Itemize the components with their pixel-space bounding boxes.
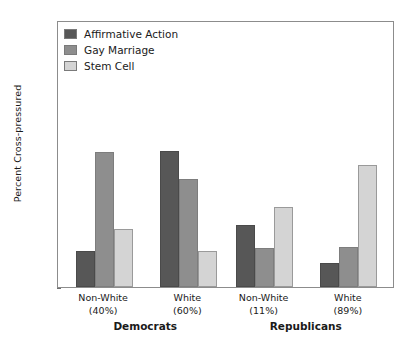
bar [76,251,95,287]
bar [198,251,217,287]
legend-label: Gay Marriage [84,44,155,56]
x-axis-category-name: White [288,292,400,305]
legend-item: Affirmative Action [64,27,178,41]
bar [358,165,377,287]
chart-container: Percent Cross-pressured 90%8070605040302… [0,0,400,344]
legend-label: Affirmative Action [84,28,178,40]
bar [320,263,339,287]
legend-item: Stem Cell [64,59,178,73]
bar [179,179,198,287]
legend-swatch-icon [64,29,77,39]
bar [160,151,179,287]
legend-swatch-icon [64,61,77,71]
bar [274,207,293,287]
legend-label: Stem Cell [84,60,134,72]
bar [114,229,133,287]
legend-item: Gay Marriage [64,43,178,57]
x-axis-group-label: Republicans [236,320,376,332]
legend-swatch-icon [64,45,77,55]
y-axis-label: Percent Cross-pressured [12,64,23,224]
x-axis-group-label: Democrats [75,320,215,332]
bar [95,152,114,287]
bar [236,225,255,287]
y-axis-tick-mark [57,288,61,289]
bar [255,248,274,287]
x-axis-category-share: (89%) [288,305,400,318]
x-axis-category-label: White(89%) [288,292,400,317]
bar [339,247,358,287]
chart-legend: Affirmative Action Gay Marriage Stem Cel… [64,27,178,75]
